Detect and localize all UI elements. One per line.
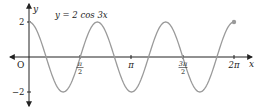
y-axis-label: y: [32, 4, 39, 14]
origin-label: O: [17, 60, 24, 70]
x-tick-pi-over-2-label: π 2: [77, 60, 84, 76]
y-tick-neg2-label: −2: [12, 87, 25, 97]
y-tick-2-label: 2: [19, 17, 24, 27]
svg-text:3π: 3π: [179, 60, 188, 68]
equation-label: y = 2 cos 3x: [54, 10, 108, 20]
endpoint-marker: [232, 20, 236, 24]
svg-text:π: π: [77, 60, 83, 68]
x-tick-pi-label: π: [127, 60, 134, 70]
x-axis-label: x: [249, 59, 254, 69]
cosine-graph: y x y = 2 cos 3x O 2 −2 π 2 π 3π 2 2π: [0, 0, 258, 112]
x-tick-2pi-label: 2π: [228, 60, 240, 70]
svg-text:2: 2: [181, 68, 185, 76]
svg-text:2: 2: [78, 68, 82, 76]
